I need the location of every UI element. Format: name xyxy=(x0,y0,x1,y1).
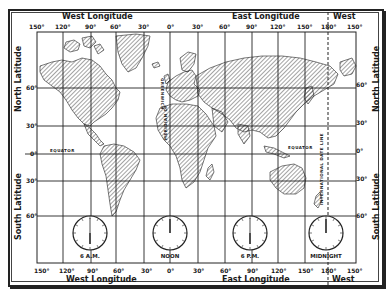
clock-midnight xyxy=(309,216,343,250)
top-lon-label: 180° xyxy=(321,24,337,30)
left-lat-label: 30° xyxy=(26,178,37,184)
bottom-lon-label: 30° xyxy=(141,268,152,274)
left-lat-label: 60° xyxy=(26,213,37,219)
right-lat-label: 30° xyxy=(356,176,367,182)
bottom-west-longitude-title: West Longitude xyxy=(66,276,137,284)
top-west-longitude-title: West Longitude xyxy=(62,13,133,21)
clock-label-6am: 6 A.M. xyxy=(70,254,110,260)
left-lat-label: 60° xyxy=(26,85,37,91)
top-lon-label: 150° xyxy=(29,24,45,30)
bottom-lon-label: 60° xyxy=(113,268,124,274)
top-lon-label: 90° xyxy=(246,24,257,30)
bottom-lon-label: 150° xyxy=(347,268,363,274)
left-lat-label: 30° xyxy=(26,123,37,129)
left-south-latitude-title: South Latitude xyxy=(15,173,23,240)
bottom-lon-label: 90° xyxy=(247,268,258,274)
right-lat-label: 30° xyxy=(356,120,367,126)
bottom-lon-label: 120° xyxy=(271,268,287,274)
bottom-lon-label: 90° xyxy=(87,268,98,274)
clock-label-midnight: MIDNIGHT xyxy=(306,254,346,260)
meridian-label: MERIDIAN OF xyxy=(164,104,168,140)
top-lon-label: 120° xyxy=(55,24,71,30)
top-east-longitude-title: East Longitude xyxy=(232,13,300,21)
clock-6pm xyxy=(233,216,267,250)
equator-label-east: EQUATOR xyxy=(288,146,313,150)
left-lat-label: 0° xyxy=(30,151,37,157)
bottom-lon-label: 150° xyxy=(34,268,50,274)
top-lon-label: 30° xyxy=(192,24,203,30)
bottom-east-longitude-title: East Longitude xyxy=(222,276,290,284)
right-lat-label: 60° xyxy=(356,213,367,219)
right-south-latitude-title: South Latitude xyxy=(373,173,381,240)
top-lon-label: 60° xyxy=(110,24,121,30)
left-north-latitude-title: North Latitude xyxy=(15,46,23,112)
date-line-label: INTERNATIONAL DATE LINE xyxy=(320,133,324,205)
bottom-west-right-title: West xyxy=(332,276,355,284)
top-west-right-title: West xyxy=(333,13,356,21)
top-lon-label: 90° xyxy=(85,24,96,30)
top-lon-label: 30° xyxy=(138,24,149,30)
clock-6am xyxy=(73,216,107,250)
bottom-lon-label: 150° xyxy=(298,268,314,274)
bottom-lon-label: 120° xyxy=(59,268,75,274)
top-lon-label: 60° xyxy=(219,24,230,30)
top-lon-label: 120° xyxy=(270,24,286,30)
top-lon-label: 150° xyxy=(297,24,313,30)
right-lat-label: 0° xyxy=(356,148,363,154)
clock-label-noon: NOON xyxy=(150,254,190,260)
top-lon-label: 150° xyxy=(347,24,363,30)
clock-noon xyxy=(153,216,187,250)
right-lat-label: 60° xyxy=(356,82,367,88)
top-lon-label: 0° xyxy=(167,24,174,30)
bottom-lon-label: 30° xyxy=(193,268,204,274)
equator-label-west: EQUATOR xyxy=(50,149,75,153)
bottom-lon-label: 60° xyxy=(220,268,231,274)
right-north-latitude-title: North Latitude xyxy=(373,46,381,112)
bottom-lon-label: 180° xyxy=(321,268,337,274)
clock-label-6pm: 6 P.M. xyxy=(230,254,270,260)
bottom-lon-label: 0° xyxy=(167,268,174,274)
